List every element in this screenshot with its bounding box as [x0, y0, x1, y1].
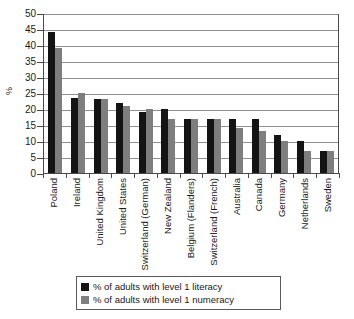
legend-item: % of adults with level 1 literacy — [81, 280, 275, 293]
bar-group — [44, 14, 67, 173]
bar-group — [89, 14, 112, 173]
bar — [320, 151, 327, 173]
bar — [297, 141, 304, 173]
bar-group — [67, 14, 90, 173]
bar — [146, 109, 153, 173]
legend-label: % of adults with level 1 numeracy — [93, 294, 234, 305]
bar — [48, 32, 55, 173]
bar-group — [180, 14, 203, 173]
y-axis-tick-label: 40 — [25, 41, 36, 51]
x-axis-tick-label: Switzerland (French) — [209, 178, 219, 266]
bar — [94, 99, 101, 173]
bar — [116, 103, 123, 173]
bar-group — [247, 14, 270, 173]
y-axis-tick-label: 20 — [25, 105, 36, 115]
bar — [327, 151, 334, 173]
bar — [207, 119, 214, 173]
bar — [191, 119, 198, 173]
x-axis-label-slot: Sweden — [316, 178, 339, 262]
x-axis-label-slot: Switzerland (French) — [202, 178, 225, 262]
chart-legend: % of adults with level 1 literacy% of ad… — [76, 276, 281, 310]
y-axis-tick-label: 10 — [25, 137, 36, 147]
x-axis-label-slot: United Kingdom — [89, 178, 112, 262]
x-axis-tick-label: United States — [118, 178, 128, 235]
x-axis-tick-label: Switzerland (German) — [140, 178, 150, 270]
bar — [304, 151, 311, 173]
x-axis-tick-label: Ireland — [72, 178, 82, 207]
x-axis-tick-label: New Zealand — [163, 178, 173, 234]
y-axis-tick-label: 45 — [25, 25, 36, 35]
legend-swatch-numeracy — [81, 296, 89, 304]
bar-group — [157, 14, 180, 173]
x-axis-label-slot: Switzerland (German) — [134, 178, 157, 262]
legend-swatch-literacy — [81, 283, 89, 291]
x-axis-label-slot: Belgium (Flanders) — [180, 178, 203, 262]
y-axis-tick-label: 5 — [30, 153, 36, 163]
x-axis-label-slot: Australia — [225, 178, 248, 262]
bar-group — [270, 14, 293, 173]
x-axis-tick-label: Poland — [49, 178, 59, 208]
x-axis-tick-label: Canada — [254, 178, 264, 211]
bar — [161, 109, 168, 173]
bar — [281, 141, 288, 173]
bar — [168, 119, 175, 173]
bar — [229, 119, 236, 173]
x-axis-tick-label: Sweden — [323, 178, 333, 212]
x-axis-label-slot: Ireland — [66, 178, 89, 262]
bar — [184, 119, 191, 173]
bar — [252, 119, 259, 173]
x-axis-tick-label: United Kingdom — [95, 178, 105, 246]
y-axis-title: % — [4, 84, 14, 98]
x-axis-tick-labels: PolandIrelandUnited KingdomUnited States… — [43, 178, 339, 262]
bar-group — [134, 14, 157, 173]
x-axis-label-slot: New Zealand — [157, 178, 180, 262]
bar — [274, 135, 281, 173]
bar — [55, 48, 62, 173]
bar-group — [225, 14, 248, 173]
bar — [139, 112, 146, 173]
x-axis-label-slot: Poland — [43, 178, 66, 262]
x-axis-label-slot: Netherlands — [293, 178, 316, 262]
x-axis-label-slot: United States — [111, 178, 134, 262]
bar-series-layer — [44, 14, 338, 173]
y-axis-tick-label: 35 — [25, 57, 36, 67]
bar — [71, 98, 78, 173]
x-axis-tick-label: Australia — [232, 178, 242, 215]
bar — [214, 119, 221, 173]
y-axis-tick-label: 0 — [30, 169, 36, 179]
legend-item: % of adults with level 1 numeracy — [81, 293, 275, 306]
bar-group — [202, 14, 225, 173]
y-axis-tick-label: 50 — [25, 9, 36, 19]
plot-area — [43, 14, 339, 174]
bar — [236, 128, 243, 173]
x-axis-tick-label: Netherlands — [300, 178, 310, 229]
bar — [259, 131, 266, 173]
y-axis-tick-label: 25 — [25, 89, 36, 99]
bar — [78, 93, 85, 173]
bar — [123, 106, 130, 173]
x-axis-tick-label: Germany — [277, 178, 287, 217]
bar — [101, 99, 108, 173]
bar-group — [315, 14, 338, 173]
bar-chart: % 50454035302520151050 PolandIrelandUnit… — [0, 0, 354, 319]
legend-label: % of adults with level 1 literacy — [93, 281, 222, 292]
y-axis-tick-label: 15 — [25, 121, 36, 131]
bar-group — [112, 14, 135, 173]
x-axis-tick-label: Belgium (Flanders) — [186, 178, 196, 258]
x-axis-label-slot: Germany — [271, 178, 294, 262]
x-axis-label-slot: Canada — [248, 178, 271, 262]
x-axis-tick — [339, 173, 340, 178]
bar-group — [293, 14, 316, 173]
y-axis-tick-label: 30 — [25, 73, 36, 83]
